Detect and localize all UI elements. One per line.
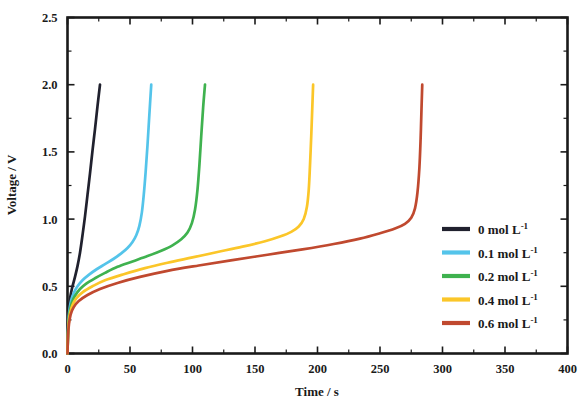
y-axis-tick-labels: 0.00.51.01.52.02.5 bbox=[42, 11, 58, 361]
x-tick-label: 250 bbox=[371, 362, 390, 376]
x-tick-label: 350 bbox=[496, 362, 515, 376]
data-series-group bbox=[68, 85, 423, 354]
series-line bbox=[68, 85, 314, 354]
chart-figure: 050100150200250300350400 0.00.51.01.52.0… bbox=[0, 0, 582, 405]
y-tick-label: 0.5 bbox=[42, 280, 58, 294]
x-tick-label: 400 bbox=[558, 362, 577, 376]
x-tick-label: 300 bbox=[433, 362, 452, 376]
x-tick-label: 200 bbox=[308, 362, 327, 376]
x-axis-title: Time / s bbox=[295, 384, 339, 399]
legend-label: 0.1 mol L-1 bbox=[478, 245, 538, 261]
plot-svg: 050100150200250300350400 0.00.51.01.52.0… bbox=[0, 0, 582, 405]
series-line bbox=[68, 85, 206, 354]
legend-label: 0 mol L-1 bbox=[478, 221, 529, 237]
y-tick-label: 2.0 bbox=[42, 78, 58, 92]
y-axis-title: Voltage / V bbox=[4, 154, 19, 215]
y-tick-label: 1.5 bbox=[42, 145, 58, 159]
x-tick-label: 50 bbox=[124, 362, 137, 376]
legend-label: 0.6 mol L-1 bbox=[478, 315, 538, 331]
y-tick-label: 0.0 bbox=[42, 347, 58, 361]
y-tick-label: 1.0 bbox=[42, 213, 58, 227]
y-tick-label: 2.5 bbox=[42, 11, 58, 25]
series-line bbox=[68, 85, 152, 354]
x-tick-label: 150 bbox=[246, 362, 265, 376]
series-line bbox=[68, 85, 423, 354]
legend-label: 0.4 mol L-1 bbox=[478, 292, 538, 308]
legend-label: 0.2 mol L-1 bbox=[478, 268, 538, 284]
x-axis-tick-labels: 050100150200250300350400 bbox=[64, 362, 577, 376]
x-tick-label: 0 bbox=[64, 362, 70, 376]
x-tick-label: 100 bbox=[183, 362, 202, 376]
chart-legend: 0 mol L-10.1 mol L-10.2 mol L-10.4 mol L… bbox=[442, 221, 538, 331]
